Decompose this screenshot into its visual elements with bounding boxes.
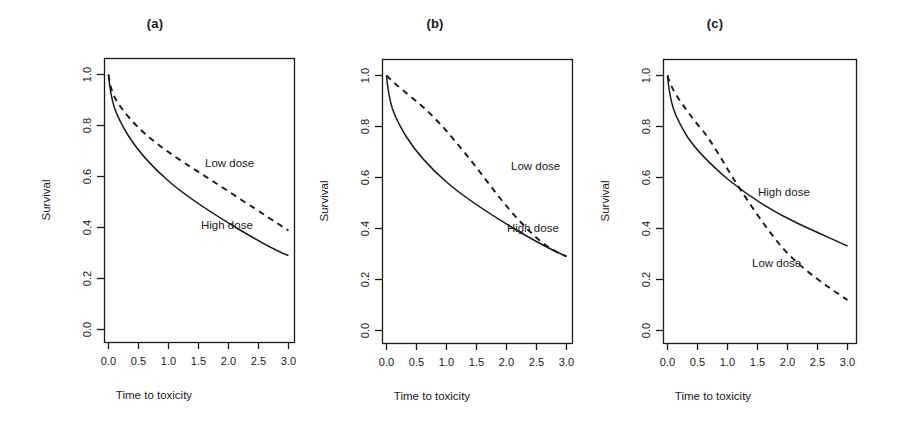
panel-a-curve-low-dose xyxy=(109,75,289,231)
x-tick-label: 2.0 xyxy=(221,355,236,367)
panel-b: (b) 1.0 0.8 0.6 0.4 0.2 0.0 xyxy=(280,0,590,428)
x-tick-label: 3.0 xyxy=(840,356,855,368)
panel-a-y-ticks xyxy=(97,75,104,330)
x-tick-label: 1.5 xyxy=(750,356,765,368)
y-tick-label: 1.0 xyxy=(81,67,93,82)
x-tick-label: 1.0 xyxy=(720,356,735,368)
panel-c-y-ticks xyxy=(656,76,663,331)
panel-b-x-axis-title: Time to toxicity xyxy=(277,390,587,402)
y-tick-label: 1.0 xyxy=(359,68,371,83)
panel-b-label-low-dose: Low dose xyxy=(511,160,560,172)
panel-a-curve-high-dose xyxy=(109,75,289,256)
survival-curves-figure: (a) 1.0 0.8 0.6 0.4 0.2 0.0 xyxy=(0,0,903,428)
panel-c-y-tick-labels: 1.0 0.8 0.6 0.4 0.2 0.0 xyxy=(640,68,652,338)
x-tick-label: 2.5 xyxy=(251,355,266,367)
panel-a: (a) 1.0 0.8 0.6 0.4 0.2 0.0 xyxy=(0,0,310,428)
panel-b-x-tick-labels: 0.0 0.5 1.0 1.5 2.0 2.5 3.0 xyxy=(379,356,574,368)
panel-a-y-axis-title: Survival xyxy=(40,174,52,226)
x-tick-label: 2.0 xyxy=(499,356,514,368)
panel-c-label-low-dose: Low dose xyxy=(752,257,801,269)
panel-c-x-tick-labels: 0.0 0.5 1.0 1.5 2.0 2.5 3.0 xyxy=(660,356,855,368)
x-tick-label: 1.0 xyxy=(439,356,454,368)
panel-c-plot-box xyxy=(664,60,857,344)
y-tick-label: 0.8 xyxy=(359,119,371,134)
panel-c-curve-high-dose xyxy=(668,76,848,247)
y-tick-label: 0.8 xyxy=(81,118,93,133)
x-tick-label: 2.5 xyxy=(810,356,825,368)
y-tick-label: 0.6 xyxy=(81,169,93,184)
y-tick-label: 0.4 xyxy=(359,221,371,236)
y-tick-label: 0.0 xyxy=(640,323,652,338)
panel-a-y-tick-labels: 1.0 0.8 0.6 0.4 0.2 0.0 xyxy=(81,67,93,337)
panel-c: (c) 1.0 0.8 0.6 0.4 0.2 0.0 xyxy=(560,0,903,428)
panel-a-label-low-dose: Low dose xyxy=(205,157,254,169)
y-tick-label: 0.6 xyxy=(640,170,652,185)
panel-b-y-axis-title: Survival xyxy=(318,175,330,227)
x-tick-label: 0.0 xyxy=(101,355,116,367)
y-tick-label: 0.2 xyxy=(640,272,652,287)
x-tick-label: 2.0 xyxy=(780,356,795,368)
panel-c-y-axis-title: Survival xyxy=(599,175,611,227)
panel-a-plot-box xyxy=(105,59,295,343)
panel-b-y-tick-labels: 1.0 0.8 0.6 0.4 0.2 0.0 xyxy=(359,68,371,338)
x-tick-label: 0.5 xyxy=(409,356,424,368)
x-tick-label: 1.0 xyxy=(161,355,176,367)
panel-b-plot-box xyxy=(383,60,573,344)
panel-c-label-high-dose: High dose xyxy=(758,186,810,198)
panel-a-x-tick-labels: 0.0 0.5 1.0 1.5 2.0 2.5 3.0 xyxy=(101,355,296,367)
panel-a-label-high-dose: High dose xyxy=(201,219,253,231)
y-tick-label: 0.4 xyxy=(640,221,652,236)
panel-a-x-axis-title: Time to toxicity xyxy=(0,389,309,401)
x-tick-label: 0.0 xyxy=(379,356,394,368)
y-tick-label: 0.2 xyxy=(81,271,93,286)
y-tick-label: 0.6 xyxy=(359,170,371,185)
panel-c-x-axis-title: Time to toxicity xyxy=(558,390,868,402)
y-tick-label: 0.8 xyxy=(640,119,652,134)
panel-c-plot: 1.0 0.8 0.6 0.4 0.2 0.0 0.0 0.5 1.0 xyxy=(560,0,903,428)
y-tick-label: 0.2 xyxy=(359,272,371,287)
x-tick-label: 1.5 xyxy=(191,355,206,367)
panel-b-y-ticks xyxy=(375,76,382,331)
x-tick-label: 0.5 xyxy=(690,356,705,368)
y-tick-label: 0.0 xyxy=(81,322,93,337)
x-tick-label: 1.5 xyxy=(469,356,484,368)
x-tick-label: 0.5 xyxy=(131,355,146,367)
y-tick-label: 0.4 xyxy=(81,220,93,235)
x-tick-label: 0.0 xyxy=(660,356,675,368)
y-tick-label: 1.0 xyxy=(640,68,652,83)
y-tick-label: 0.0 xyxy=(359,323,371,338)
x-tick-label: 2.5 xyxy=(529,356,544,368)
panel-b-label-high-dose: High dose xyxy=(507,222,559,234)
